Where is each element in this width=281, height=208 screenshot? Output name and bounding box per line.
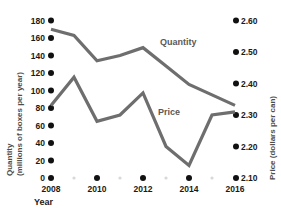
left-axis-title-line1: Quantity [5,143,14,176]
right-tick-240: 2.40 [241,79,258,89]
left-tick-20: 20 [36,156,46,166]
series-label-price: Price [158,107,180,117]
right-axis-title: Price (dollars per can) [268,96,277,180]
right-axis-tick-labels: 2.60 2.50 2.40 2.30 2.20 2.10 [241,16,258,184]
x-tick-2008: 2008 [42,184,61,194]
series-line-price [51,77,235,165]
left-tick-40: 40 [36,138,46,148]
x-tick-2016: 2016 [226,184,245,194]
right-tick-230: 2.30 [241,110,258,120]
series-label-quantity: Quantity [160,37,197,47]
x-axis-tick-labels: 2008 2010 2012 2014 2016 [42,184,245,194]
x-axis-title: Year [34,197,54,207]
left-axis-title-line2: (millions of boxes per year) [15,72,24,176]
left-tick-140: 140 [31,51,45,61]
x-tick-2014: 2014 [180,184,199,194]
x-tick-2012: 2012 [134,184,153,194]
x-axis-tick-dots [94,175,192,181]
right-tick-220: 2.20 [241,142,258,152]
right-tick-260: 2.60 [241,16,258,26]
right-axis-tick-dots [233,18,239,182]
x-tick-2010: 2010 [88,184,107,194]
line-chart-svg: 180 160 140 120 100 80 60 40 20 0 2.60 2… [0,0,281,208]
left-tick-100: 100 [31,86,45,96]
left-tick-180: 180 [31,16,45,26]
right-tick-250: 2.50 [241,47,258,57]
chart-container: 180 160 140 120 100 80 60 40 20 0 2.60 2… [0,0,281,208]
left-axis-tick-dots [48,18,54,182]
left-tick-60: 60 [36,121,46,131]
left-tick-80: 80 [36,103,46,113]
left-tick-120: 120 [31,68,45,78]
left-tick-0: 0 [40,173,45,183]
right-tick-210: 2.10 [241,173,258,183]
left-axis-tick-labels: 180 160 140 120 100 80 60 40 20 0 [31,16,45,184]
left-axis-title: Quantity (millions of boxes per year) [5,72,24,176]
left-tick-160: 160 [31,33,45,43]
